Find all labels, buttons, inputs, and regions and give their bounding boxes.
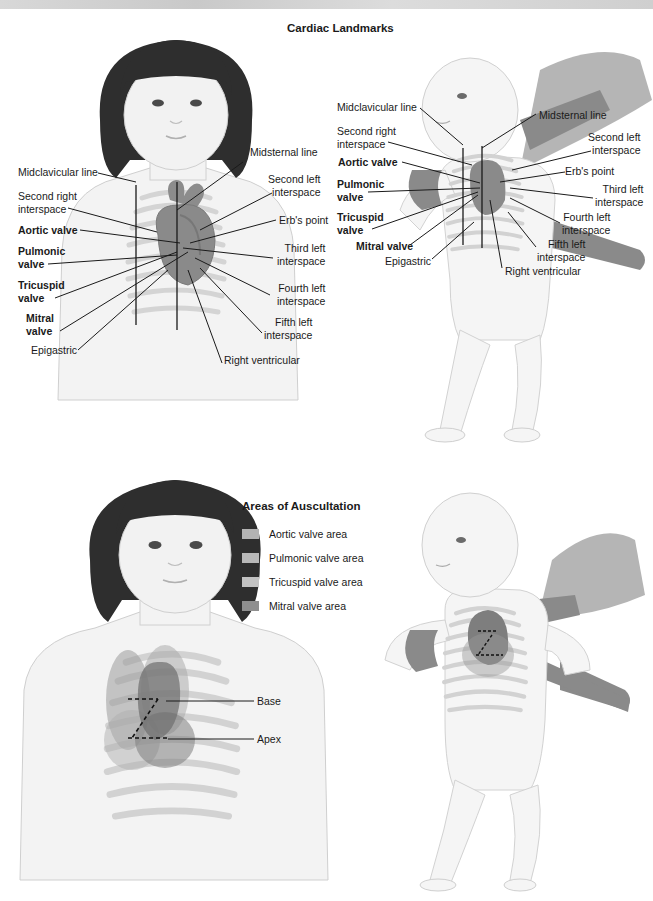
label-tricuspid-valve: Tricuspid valve: [18, 279, 65, 305]
auscultation-title: Areas of Auscultation: [242, 500, 364, 512]
infant-label-tricuspid-valve: Tricuspid valve: [337, 211, 384, 237]
infant-label-midclavicular-line: Midclavicular line: [337, 101, 417, 114]
label-second-left-interspace: Second left interspace: [268, 173, 321, 199]
label-fourth-left-interspace: Fourth left interspace: [277, 282, 325, 308]
child-landmarks-figure: [48, 40, 298, 400]
infant-label-aortic-valve: Aortic valve: [338, 156, 398, 169]
infant-label-second-right-interspace: Second right interspace: [337, 125, 396, 151]
infant-label-epigastric: Epigastric: [385, 255, 431, 268]
label-epigastric: Epigastric: [31, 344, 77, 357]
auscultation-legend: Areas of Auscultation Aortic valve area …: [242, 500, 364, 618]
label-right-ventricular: Right ventricular: [224, 354, 300, 367]
legend-label: Tricuspid valve area: [269, 576, 363, 588]
infant-auscultation-figure: [385, 493, 645, 891]
label-mitral-valve: Mitral valve: [26, 312, 54, 338]
label-erbs-point: Erb's point: [279, 214, 328, 227]
legend-label: Aortic valve area: [269, 528, 347, 540]
label-third-left-interspace: Third left interspace: [277, 242, 325, 268]
legend-item-aortic: Aortic valve area: [242, 522, 364, 546]
legend-item-tricuspid: Tricuspid valve area: [242, 570, 364, 594]
illustration-canvas: [0, 0, 653, 901]
legend-item-pulmonic: Pulmonic valve area: [242, 546, 364, 570]
legend-item-mitral: Mitral valve area: [242, 594, 364, 618]
legend-label: Mitral valve area: [269, 600, 346, 612]
label-apex: Apex: [257, 733, 281, 746]
infant-label-third-left-interspace: Third left interspace: [595, 183, 643, 209]
label-base: Base: [257, 695, 281, 708]
infant-label-second-left-interspace: Second left interspace: [588, 131, 641, 157]
label-midclavicular-line: Midclavicular line: [18, 166, 98, 179]
infant-label-fifth-left-interspace: Fifth left interspace: [537, 238, 585, 264]
infant-label-fourth-left-interspace: Fourth left interspace: [562, 211, 610, 237]
label-pulmonic-valve: Pulmonic valve: [18, 245, 65, 271]
infant-label-erbs-point: Erb's point: [565, 165, 614, 178]
mitral-swatch: [242, 601, 259, 611]
pulmonic-swatch: [242, 553, 259, 563]
label-second-right-interspace: Second right interspace: [18, 190, 77, 216]
infant-label-midsternal-line: Midsternal line: [539, 109, 607, 122]
infant-label-pulmonic-valve: Pulmonic valve: [337, 178, 384, 204]
tricuspid-swatch: [242, 577, 259, 587]
label-fifth-left-interspace: Fifth left interspace: [264, 316, 312, 342]
label-aortic-valve: Aortic valve: [18, 224, 78, 237]
aortic-swatch: [242, 529, 259, 539]
label-midsternal-line: Midsternal line: [250, 146, 318, 159]
legend-label: Pulmonic valve area: [269, 552, 364, 564]
cardiac-landmarks-title: Cardiac Landmarks: [287, 22, 394, 34]
infant-label-right-ventricular: Right ventricular: [505, 265, 581, 278]
infant-label-mitral-valve: Mitral valve: [356, 240, 413, 253]
